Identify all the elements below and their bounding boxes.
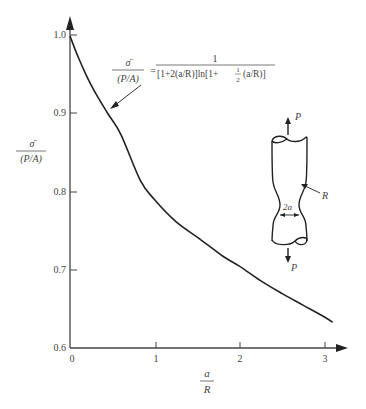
y-axis-label: σ̄ (P/A) — [16, 138, 46, 165]
y-tick-label: 0.9 — [54, 107, 67, 118]
svg-text:[1+2(a/R)]ln[1+: [1+2(a/R)]ln[1+ — [157, 69, 218, 80]
x-tick-labels: 0 1 2 3 — [70, 353, 328, 364]
x-axis-label: a R — [200, 367, 214, 395]
svg-text:(a/R)]: (a/R)] — [243, 69, 266, 80]
svg-text:1: 1 — [213, 53, 218, 64]
svg-text:1: 1 — [236, 66, 240, 74]
svg-text:σ̄: σ̄ — [30, 138, 38, 149]
svg-text:(P/A): (P/A) — [20, 153, 42, 165]
svg-text:(P/A): (P/A) — [117, 73, 139, 85]
svg-text:P: P — [294, 111, 301, 122]
y-tick-label: 1.0 — [54, 29, 67, 40]
x-tick-label: 0 — [70, 353, 75, 364]
x-tick-label: 1 — [154, 353, 159, 364]
svg-text:σ̄: σ̄ — [126, 57, 134, 68]
x-ticks — [156, 342, 325, 348]
formula-pointer-arrow-icon — [110, 85, 141, 109]
specimen-labels: P R 2a P — [283, 111, 328, 273]
x-tick-label: 3 — [323, 353, 328, 364]
svg-text:P: P — [290, 262, 297, 273]
svg-text:R: R — [321, 190, 328, 201]
svg-text:2: 2 — [236, 76, 240, 84]
svg-text:a: a — [204, 367, 210, 379]
y-ticks — [70, 35, 77, 270]
y-tick-labels: 1.0 0.9 0.8 0.7 0.6 — [54, 29, 67, 353]
y-tick-label: 0.8 — [54, 186, 67, 197]
svg-text:2a: 2a — [283, 202, 293, 212]
svg-text:=: = — [150, 65, 156, 76]
x-axis-arrow-icon — [336, 344, 348, 352]
y-tick-label: 0.7 — [54, 264, 67, 275]
chart: 1.0 0.9 0.8 0.7 0.6 0 1 2 3 a R σ̄ (P/A)… — [0, 0, 366, 409]
formula: σ̄ (P/A) = 1 [1+2(a/R)]ln[1+ 1 2 (a/R)] — [112, 53, 275, 85]
x-tick-label: 2 — [238, 353, 243, 364]
y-axis-arrow-icon — [66, 16, 74, 30]
svg-text:R: R — [203, 383, 211, 395]
y-tick-label: 0.6 — [54, 342, 67, 353]
specimen-diagram — [272, 117, 320, 263]
